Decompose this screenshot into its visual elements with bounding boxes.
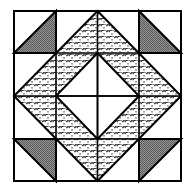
quilt-block-svg	[0, 0, 194, 192]
